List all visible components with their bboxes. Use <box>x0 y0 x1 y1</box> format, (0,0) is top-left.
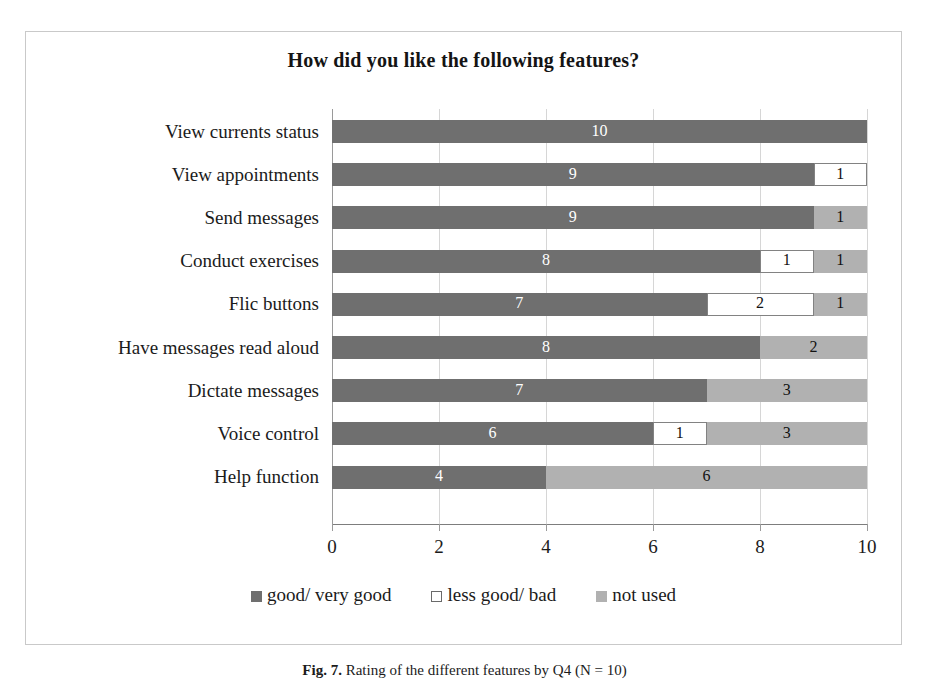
bar-row: View appointments91 <box>332 163 867 186</box>
bar-row: Voice control613 <box>332 422 867 445</box>
bar-value-label: 9 <box>569 209 577 225</box>
bar-segment-bad[interactable]: 1 <box>653 422 707 445</box>
category-label: View currents status <box>165 120 319 142</box>
category-label: Help function <box>214 466 319 488</box>
bar-segment-unused[interactable]: 3 <box>707 379 868 402</box>
bar-row: Have messages read aloud82 <box>332 336 867 359</box>
category-label: Flic buttons <box>229 293 319 315</box>
x-axis-tick <box>653 524 654 531</box>
category-label: Have messages read aloud <box>118 336 319 358</box>
bar-row: Flic buttons721 <box>332 293 867 316</box>
chart-legend: good/ very goodless good/ badnot used <box>26 584 901 606</box>
bar-segment-unused[interactable]: 3 <box>707 422 868 445</box>
x-axis-tick-label: 2 <box>434 536 444 558</box>
bar-segment-unused[interactable]: 6 <box>546 466 867 489</box>
bar-segment-unused[interactable]: 2 <box>760 336 867 359</box>
legend-label: less good/ bad <box>447 584 556 606</box>
bar-value-label: 4 <box>435 468 443 484</box>
bar-value-label: 10 <box>592 123 608 139</box>
legend-label: good/ very good <box>267 584 392 606</box>
bar-segment-good[interactable]: 8 <box>332 336 760 359</box>
category-label: View appointments <box>172 163 319 185</box>
bar-value-label: 7 <box>515 295 523 311</box>
bar-value-label: 6 <box>703 468 711 484</box>
legend-swatch-icon <box>596 591 607 602</box>
x-axis-tick-label: 0 <box>327 536 337 558</box>
caption-number: Fig. 7. <box>302 662 342 678</box>
figure-caption: Fig. 7. Rating of the different features… <box>0 662 929 679</box>
bar-segment-unused[interactable]: 1 <box>814 206 868 229</box>
bar-segment-bad[interactable]: 2 <box>707 293 814 316</box>
bar-row: Conduct exercises811 <box>332 250 867 273</box>
x-axis-tick <box>867 524 868 531</box>
x-axis-tick <box>760 524 761 531</box>
x-axis-tick-label: 10 <box>858 536 877 558</box>
category-label: Voice control <box>218 422 320 444</box>
bar-segment-bad[interactable]: 1 <box>814 163 868 186</box>
bar-segment-good[interactable]: 9 <box>332 206 814 229</box>
bar-segment-good[interactable]: 7 <box>332 293 707 316</box>
bar-value-label: 1 <box>836 166 844 182</box>
chart-frame: How did you like the following features?… <box>25 31 902 645</box>
bar-segment-good[interactable]: 7 <box>332 379 707 402</box>
bar-value-label: 9 <box>569 166 577 182</box>
x-axis-line <box>332 524 867 525</box>
x-axis-tick-label: 4 <box>541 536 551 558</box>
bar-segment-unused[interactable]: 1 <box>814 250 868 273</box>
category-label: Send messages <box>204 206 319 228</box>
bar-value-label: 1 <box>836 252 844 268</box>
bar-row: View currents status10 <box>332 120 867 143</box>
legend-item[interactable]: good/ very good <box>251 584 392 606</box>
bar-value-label: 2 <box>756 295 764 311</box>
bar-segment-good[interactable]: 8 <box>332 250 760 273</box>
x-axis-tick <box>439 524 440 531</box>
category-label: Dictate messages <box>188 379 319 401</box>
bar-value-label: 3 <box>783 382 791 398</box>
bar-segment-good[interactable]: 4 <box>332 466 546 489</box>
bar-segment-bad[interactable]: 1 <box>760 250 814 273</box>
x-axis-tick <box>546 524 547 531</box>
bar-segment-good[interactable]: 9 <box>332 163 814 186</box>
gridline <box>867 109 868 524</box>
x-axis-tick-label: 6 <box>648 536 658 558</box>
legend-label: not used <box>612 584 676 606</box>
bar-segment-unused[interactable]: 1 <box>814 293 868 316</box>
bar-value-label: 7 <box>515 382 523 398</box>
legend-item[interactable]: less good/ bad <box>431 584 556 606</box>
legend-swatch-icon <box>251 591 262 602</box>
plot-area: 0246810View currents status10View appoin… <box>332 109 867 524</box>
legend-item[interactable]: not used <box>596 584 676 606</box>
caption-text: Rating of the different features by Q4 (… <box>346 662 627 678</box>
bar-row: Dictate messages73 <box>332 379 867 402</box>
legend-swatch-icon <box>431 591 442 602</box>
bar-value-label: 1 <box>676 425 684 441</box>
bar-value-label: 8 <box>542 252 550 268</box>
bar-segment-good[interactable]: 10 <box>332 120 867 143</box>
bar-segment-good[interactable]: 6 <box>332 422 653 445</box>
bar-value-label: 1 <box>836 295 844 311</box>
bar-value-label: 2 <box>810 339 818 355</box>
category-label: Conduct exercises <box>180 250 319 272</box>
x-axis-tick-label: 8 <box>755 536 765 558</box>
bar-value-label: 8 <box>542 339 550 355</box>
bar-row: Send messages91 <box>332 206 867 229</box>
bar-value-label: 3 <box>783 425 791 441</box>
bar-value-label: 1 <box>836 209 844 225</box>
bar-value-label: 6 <box>489 425 497 441</box>
chart-title: How did you like the following features? <box>26 49 901 72</box>
figure: How did you like the following features?… <box>0 0 929 681</box>
bar-value-label: 1 <box>783 252 791 268</box>
bar-row: Help function46 <box>332 466 867 489</box>
x-axis-tick <box>332 524 333 531</box>
